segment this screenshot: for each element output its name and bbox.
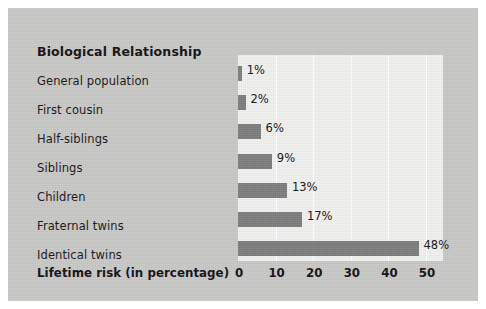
page-title: Biological Relationship [37, 44, 202, 59]
bar-value-1: 2% [251, 92, 269, 106]
figure-panel: Biological Relationship General populati… [8, 8, 478, 301]
category-label-1: First cousin [37, 103, 103, 117]
bar-value-3: 9% [277, 151, 295, 165]
plot-area: 1% 2% 6% 9% 13% 17% 48% [238, 55, 443, 261]
category-label-0: General population [37, 74, 149, 88]
bar-value-6: 48% [424, 238, 450, 252]
bar-first-cousin [238, 95, 246, 110]
bar-row: 13% [238, 176, 443, 205]
category-label-5: Fraternal twins [37, 219, 124, 233]
x-tick-0: 0 [235, 266, 243, 280]
x-tick-20: 20 [306, 266, 322, 280]
category-label-3: Siblings [37, 161, 83, 175]
bar-row: 1% [238, 59, 443, 88]
bar-row: 48% [238, 234, 443, 263]
bar-children [238, 183, 287, 198]
bar-value-5: 17% [307, 209, 333, 223]
bar-row: 6% [238, 117, 443, 146]
x-tick-40: 40 [381, 266, 397, 280]
bar-value-4: 13% [292, 180, 318, 194]
bar-identical-twins [238, 241, 419, 256]
bar-value-2: 6% [266, 121, 284, 135]
category-label-6: Identical twins [37, 248, 122, 262]
bar-half-siblings [238, 124, 261, 139]
bar-row: 2% [238, 88, 443, 117]
x-axis-title: Lifetime risk (in percentage) [37, 266, 229, 280]
category-label-2: Half-siblings [37, 132, 108, 146]
x-tick-10: 10 [268, 266, 284, 280]
x-tick-50: 50 [419, 266, 435, 280]
bar-fraternal-twins [238, 212, 302, 227]
bar-row: 17% [238, 205, 443, 234]
bar-siblings [238, 154, 272, 169]
bar-general-population [238, 66, 242, 81]
x-tick-30: 30 [344, 266, 360, 280]
category-label-4: Children [37, 190, 86, 204]
bar-value-0: 1% [247, 63, 265, 77]
bar-row: 9% [238, 147, 443, 176]
